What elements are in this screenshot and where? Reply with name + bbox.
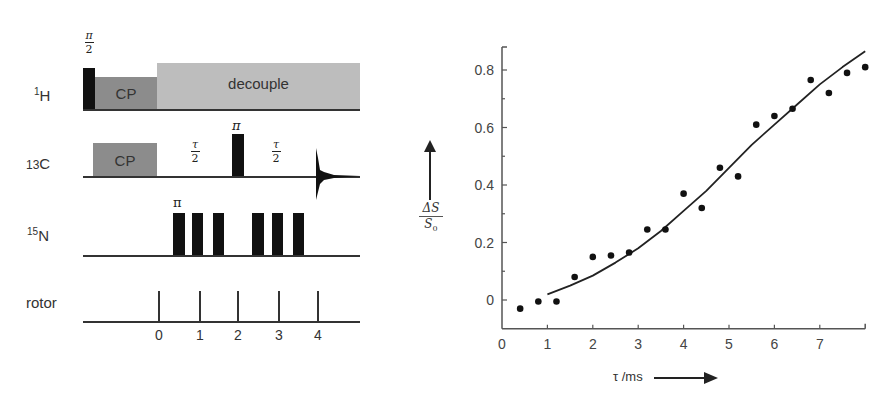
data-point <box>698 205 705 212</box>
decouple-label: decouple <box>228 75 289 92</box>
rotor-period-label: 0 <box>155 327 163 343</box>
data-point <box>608 252 615 259</box>
cp-label: CP <box>116 85 137 102</box>
n-pulse-label: π <box>173 195 182 210</box>
rotor-period-label: 3 <box>275 327 283 343</box>
rotor-period-label: 2 <box>234 327 242 343</box>
c-tau-half-1-label: τ 2 <box>189 139 201 164</box>
y-tick-label: 0.4 <box>475 177 495 193</box>
x-tick-label: 3 <box>634 336 642 352</box>
plot-canvas: 00.20.40.60.801234567 <box>400 0 893 399</box>
data-point <box>789 106 796 113</box>
data-point <box>680 190 687 197</box>
data-point <box>771 113 778 120</box>
n-baseline <box>83 255 360 257</box>
data-point <box>517 305 524 312</box>
h-baseline <box>83 109 360 111</box>
data-point <box>662 226 669 233</box>
element-symbol: C <box>39 155 50 172</box>
frac-numerator: τ <box>273 139 279 150</box>
n-pulse <box>173 213 185 256</box>
data-point <box>844 70 851 77</box>
data-point <box>553 298 560 305</box>
data-point <box>862 64 869 71</box>
c-refocus-pulse <box>232 134 244 177</box>
plot-axes: 00.20.40.60.801234567 <box>475 47 866 352</box>
data-point <box>717 164 724 171</box>
x-tick-label: 0 <box>498 336 506 352</box>
rotor-baseline <box>83 321 360 323</box>
x-tick-label: 6 <box>771 336 779 352</box>
c-refocus-pulse-label: π <box>232 118 241 133</box>
isotope-mass: 13 <box>26 158 39 172</box>
c-cp-block: CP <box>93 143 157 177</box>
y-axis-label: ΔS S0 <box>416 202 446 235</box>
data-point <box>626 249 633 256</box>
data-point <box>807 77 814 84</box>
rotor-period-tick <box>158 291 160 322</box>
rotor-period-label: 4 <box>314 327 322 343</box>
y-tick-label: 0 <box>486 292 494 308</box>
data-point <box>753 121 760 128</box>
x-tick-label: 1 <box>544 336 552 352</box>
n-pulse <box>293 213 304 256</box>
rotor-period-tick <box>199 291 201 322</box>
data-point <box>590 254 597 261</box>
n-pulse <box>272 213 283 256</box>
channel-label-13c: 13C <box>26 155 50 172</box>
frac-denominator: 2 <box>192 153 199 164</box>
frac-denominator: 2 <box>86 44 93 55</box>
data-point <box>535 298 542 305</box>
channel-label-15n: 15N <box>27 226 49 244</box>
x-axis-arrow-icon <box>654 371 718 385</box>
isotope-mass: 15 <box>27 226 38 237</box>
rotor-period-label: 1 <box>196 327 204 343</box>
element-symbol: H <box>40 87 51 104</box>
c-tau-half-2-label: τ 2 <box>270 139 282 164</box>
h-decouple-block: decouple <box>157 63 360 110</box>
frac-denominator: 2 <box>273 153 280 164</box>
x-axis-label: τ /ms <box>613 369 643 384</box>
rotor-period-tick <box>317 291 319 322</box>
y-tick-label: 0.2 <box>475 235 495 251</box>
n-pulse <box>213 213 224 256</box>
y-tick-label: 0.6 <box>475 120 495 136</box>
y-label-denominator: S0 <box>424 218 437 235</box>
h-cp-block: CP <box>95 77 157 110</box>
y-label-numerator: ΔS <box>423 202 440 215</box>
rotor-period-tick <box>237 291 239 322</box>
redor-plot: 00.20.40.60.801234567 ΔS S0 τ /ms <box>400 0 893 399</box>
n-pulse <box>252 213 264 256</box>
x-tick-label: 7 <box>816 336 824 352</box>
frac-numerator: π <box>85 30 92 41</box>
pulse-sequence-diagram: 1H π 2 CP decouple 13C CP τ 2 π τ 2 15N … <box>0 0 380 399</box>
channel-label-rotor: rotor <box>26 294 57 311</box>
h-excitation-pulse-label: π 2 <box>83 30 95 55</box>
h-excitation-pulse <box>83 68 95 110</box>
y-axis-arrow-icon <box>422 140 438 202</box>
x-tick-label: 2 <box>589 336 597 352</box>
fid-signal-icon <box>314 148 362 200</box>
data-point <box>735 173 742 180</box>
cp-label: CP <box>115 152 136 169</box>
x-tick-label: 5 <box>725 336 733 352</box>
data-point <box>826 90 833 97</box>
rotor-period-tick <box>278 291 280 322</box>
data-point <box>571 274 578 281</box>
frac-numerator: τ <box>192 139 198 150</box>
x-tick-label: 4 <box>680 336 688 352</box>
y-tick-label: 0.8 <box>475 62 495 78</box>
element-symbol: N <box>38 227 49 244</box>
channel-label-1h: 1H <box>34 86 50 104</box>
data-point <box>644 226 651 233</box>
data-points <box>517 64 869 312</box>
n-pulse <box>192 213 203 256</box>
